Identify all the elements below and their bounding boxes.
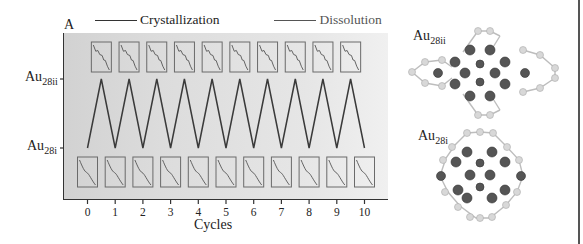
- figure-right-border: [578, 0, 580, 244]
- structure-label-au28i: Au28i: [418, 128, 448, 146]
- au28ii-structure-image: [0, 0, 583, 244]
